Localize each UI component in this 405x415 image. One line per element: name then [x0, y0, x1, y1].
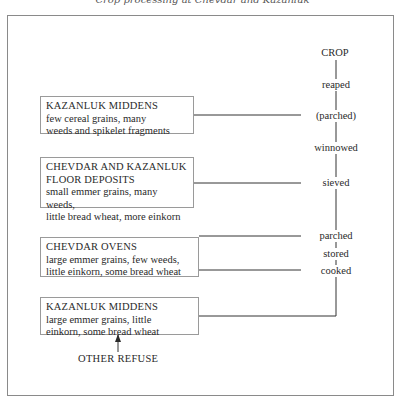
source-box-kazanluk-middens-1: KAZANLUK MIDDENS few cereal grains, many… — [40, 96, 194, 134]
stage-cooked: cooked — [301, 265, 371, 277]
stage-sieved: sieved — [301, 177, 371, 189]
source-title: CHEVDAR OVENS — [46, 241, 193, 254]
source-line: large emmer grains, few weeds, — [46, 254, 193, 267]
stage-parched: parched — [301, 230, 371, 242]
source-line: little einkorn, some bread wheat — [46, 266, 193, 279]
stage-crop: CROP — [300, 47, 370, 59]
source-line: small emmer grains, many weeds, — [46, 186, 188, 211]
source-title: KAZANLUK MIDDENS — [46, 301, 193, 314]
source-title: KAZANLUK MIDDENS — [46, 100, 188, 113]
source-line: weeds and spikelet fragments — [46, 125, 188, 138]
source-box-chevdar-ovens: CHEVDAR OVENS large emmer grains, few we… — [40, 237, 199, 277]
source-line: few cereal grains, many — [46, 113, 188, 126]
source-line: little bread wheat, more einkorn — [46, 211, 188, 224]
other-refuse-label: OTHER REFUSE — [78, 353, 158, 364]
stage-stored: stored — [301, 248, 371, 260]
source-title: FLOOR DEPOSITS — [46, 174, 188, 187]
source-line: einkorn, some bread wheat — [46, 326, 193, 339]
stage-reaped: reaped — [301, 79, 371, 91]
source-box-chevdar-kazanluk-floor: CHEVDAR AND KAZANLUK FLOOR DEPOSITS smal… — [40, 157, 194, 208]
stage-winnowed: winnowed — [301, 142, 371, 154]
source-title: CHEVDAR AND KAZANLUK — [46, 161, 188, 174]
source-line: large emmer grains, little — [46, 314, 193, 327]
source-box-kazanluk-middens-2: KAZANLUK MIDDENS large emmer grains, lit… — [40, 297, 199, 335]
stage-parched-optional: (parched) — [301, 110, 371, 122]
